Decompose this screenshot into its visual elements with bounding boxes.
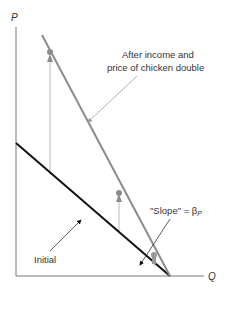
initial-label: Initial	[34, 254, 56, 265]
after-label-line2: price of chicken double	[107, 62, 204, 73]
x-axis-label: Q	[208, 271, 216, 282]
shift-arrow-2	[116, 190, 122, 202]
after-label-line1: After income and	[122, 49, 194, 60]
slope-label-text: "Slope" = β	[150, 205, 198, 216]
y-axis-label: P	[11, 12, 18, 23]
after-pointer-arrow	[88, 76, 137, 122]
slope-label-subscript: P	[197, 210, 202, 217]
shift-arrow-3	[151, 252, 157, 264]
initial-pointer-arrow	[50, 220, 81, 251]
slope-label: "Slope" = βP	[150, 205, 202, 217]
demand-shift-diagram: P Q After income and price of chicken do…	[0, 0, 228, 325]
